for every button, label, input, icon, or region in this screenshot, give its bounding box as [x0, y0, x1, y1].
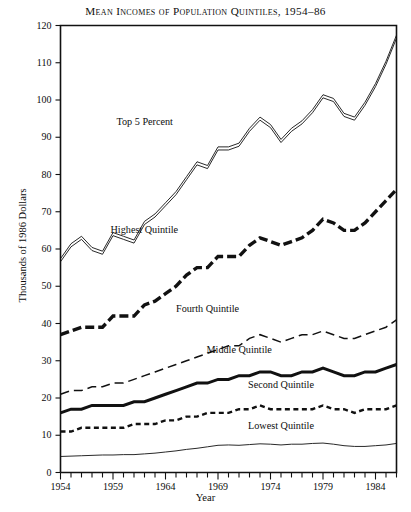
x-tick-label: 1964: [146, 482, 186, 492]
series-label-highest-quintile: Highest Quintile: [111, 224, 179, 235]
y-tick-label: 80: [22, 170, 52, 180]
series-label-second-quintile: Second Quintile: [248, 379, 314, 390]
y-tick-label: 100: [22, 95, 52, 105]
series-label-lowest-quintile: Lowest Quintile: [248, 420, 314, 431]
y-tick-label: 120: [22, 21, 52, 31]
series-label-fourth-quintile: Fourth Quintile: [176, 303, 239, 314]
chart-figure: Mean Incomes of Population Quintiles, 19…: [0, 0, 411, 512]
x-tick-label: 1959: [93, 482, 133, 492]
y-tick-label: 90: [22, 132, 52, 142]
axes: [56, 26, 397, 480]
y-tick-label: 50: [22, 281, 52, 291]
x-tick-label: 1969: [198, 482, 238, 492]
y-tick-label: 20: [22, 393, 52, 403]
series-middle-quintile: [61, 364, 397, 412]
y-tick-label: 10: [22, 430, 52, 440]
x-tick-label: 1984: [356, 482, 396, 492]
x-tick-label: 1979: [303, 482, 343, 492]
series-second-quintile: [61, 405, 397, 431]
x-tick-label: 1974: [251, 482, 291, 492]
y-tick-label: 30: [22, 356, 52, 366]
series-fourth-quintile: [61, 320, 397, 395]
y-tick-label: 70: [22, 207, 52, 217]
series-label-middle-quintile: Middle Quintile: [207, 344, 272, 355]
series-lowest-quintile: [61, 443, 397, 456]
y-tick-label: 110: [22, 58, 52, 68]
plot-area: [0, 0, 411, 512]
series-label-top-5-percent: Top 5 Percent: [117, 116, 173, 127]
series-lines: [61, 35, 397, 456]
x-tick-label: 1954: [41, 482, 81, 492]
y-tick-label: 0: [22, 468, 52, 478]
y-tick-label: 60: [22, 244, 52, 254]
y-tick-label: 40: [22, 319, 52, 329]
